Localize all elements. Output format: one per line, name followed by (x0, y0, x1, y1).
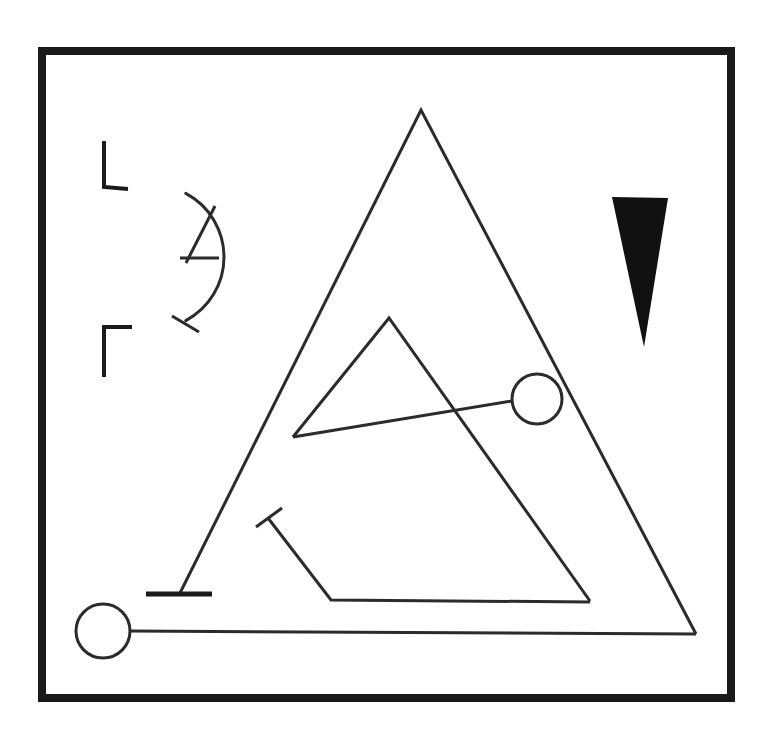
drawing-canvas (0, 0, 780, 751)
figure-svg (0, 0, 780, 751)
bottom-left-circle-node (76, 604, 130, 658)
right-circle-node (512, 374, 562, 424)
